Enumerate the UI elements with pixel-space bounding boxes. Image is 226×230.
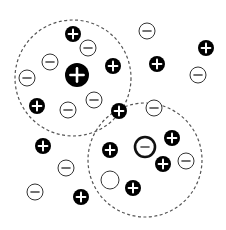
negative-charge-icon	[86, 92, 102, 108]
negative-charge-icon	[80, 40, 96, 56]
negative-charge-icon	[146, 100, 162, 116]
negative-charge-icon	[190, 67, 206, 83]
negative-charge-icon	[19, 70, 35, 86]
positive-charge-icon	[29, 98, 45, 114]
positive-charge-icon	[35, 138, 51, 154]
positive-charge-icon	[164, 130, 180, 146]
positive-charge-icon	[198, 40, 214, 56]
negative-charge-icon	[42, 54, 58, 70]
negative-charge-icon	[60, 102, 76, 118]
positive-charge-icon	[111, 103, 127, 119]
neutral-particle-icon	[101, 171, 119, 189]
negative-charge-icon	[135, 137, 155, 157]
negative-charge-icon	[27, 184, 43, 200]
positive-charge-icon	[149, 56, 165, 72]
charge-diagram	[0, 0, 226, 230]
diagram-canvas	[0, 0, 226, 230]
negative-charge-icon	[139, 23, 155, 39]
positive-charge-icon	[105, 58, 121, 74]
positive-charge-icon	[155, 156, 171, 172]
positive-charge-icon	[65, 63, 89, 87]
negative-charge-icon	[178, 153, 194, 169]
positive-charge-icon	[65, 26, 81, 42]
positive-charge-icon	[73, 189, 89, 205]
negative-charge-icon	[58, 160, 74, 176]
positive-charge-icon	[102, 142, 118, 158]
positive-charge-icon	[125, 180, 141, 196]
